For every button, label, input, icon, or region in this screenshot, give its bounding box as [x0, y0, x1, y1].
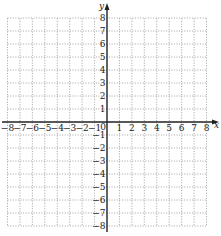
y-tick-label: −6	[92, 195, 106, 205]
y-tick-label: 3	[100, 78, 106, 88]
y-tick-label: −1	[92, 130, 105, 140]
y-tick-label: 2	[100, 91, 106, 101]
x-tick-label: 8	[204, 123, 210, 133]
x-axis-label: x	[214, 120, 219, 130]
tick-labels: xy0−8−7−6−5−4−3−2−11234567887654321−1−2−…	[1, 1, 219, 231]
x-tick-label: 2	[129, 123, 135, 133]
y-tick-label: −5	[92, 182, 106, 192]
y-tick-label: −7	[92, 208, 106, 218]
y-tick-label: −8	[92, 221, 106, 231]
y-tick-label: 5	[100, 52, 106, 62]
axes	[2, 3, 219, 232]
y-axis-arrow-icon	[105, 3, 110, 10]
y-tick-label: −4	[92, 169, 106, 179]
y-tick-label: 6	[100, 39, 106, 49]
x-tick-label: 4	[154, 123, 160, 133]
x-tick-label: 7	[191, 123, 197, 133]
coordinate-grid-svg: xy0−8−7−6−5−4−3−2−11234567887654321−1−2−…	[0, 0, 221, 236]
y-tick-label: 1	[100, 104, 106, 114]
y-tick-label: −2	[92, 143, 105, 153]
x-tick-label: 5	[166, 123, 172, 133]
y-tick-label: 8	[100, 13, 106, 23]
y-tick-label: 7	[100, 26, 106, 36]
x-tick-label: 1	[117, 123, 123, 133]
x-tick-label: 3	[141, 123, 147, 133]
coordinate-plane: xy0−8−7−6−5−4−3−2−11234567887654321−1−2−…	[0, 0, 221, 236]
y-axis-label: y	[98, 1, 105, 11]
y-tick-label: 4	[100, 65, 106, 75]
x-tick-label: 6	[179, 123, 185, 133]
x-tick-label: −2	[75, 123, 88, 133]
y-tick-label: −3	[92, 156, 106, 166]
